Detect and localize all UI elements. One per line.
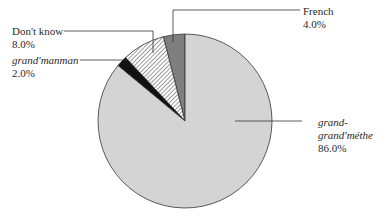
label-grandgrand-name-2: grand'méthe (318, 129, 373, 142)
label-french-value: 4.0% (303, 18, 334, 31)
label-grandgrand-value: 86.0% (318, 142, 373, 155)
label-dont-know-name: Don't know (12, 25, 63, 38)
label-french: French 4.0% (303, 5, 334, 31)
label-french-name: French (303, 5, 334, 18)
label-grandmanman-name: grand'manman (12, 54, 79, 67)
label-grandmanman-value: 2.0% (12, 67, 79, 80)
label-dont-know: Don't know 8.0% (12, 25, 63, 51)
label-dont-know-value: 8.0% (12, 38, 63, 51)
label-grandmanman: grand'manman 2.0% (12, 54, 79, 80)
label-grandgrand-name-1: grand- (318, 116, 373, 129)
label-grandgrand: grand- grand'méthe 86.0% (318, 116, 373, 155)
